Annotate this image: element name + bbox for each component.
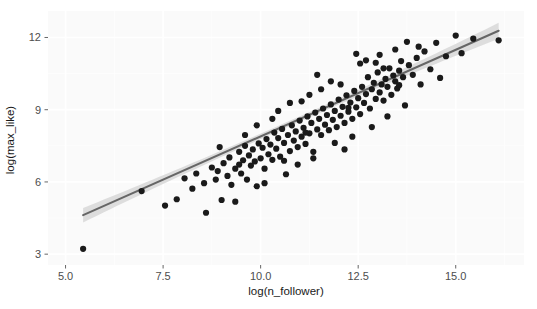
plot-area-svg: 5.07.510.012.515.0 36912 log(n_follower)… <box>0 0 537 309</box>
y-axis-title: log(max_like) <box>4 106 16 175</box>
y-tick-label: 12 <box>29 31 41 43</box>
x-tick-label: 12.5 <box>347 270 368 282</box>
y-tick-label: 3 <box>35 248 41 260</box>
x-tick-label: 15.0 <box>445 270 466 282</box>
y-tick-label: 9 <box>35 104 41 116</box>
y-axis-ticks: 36912 <box>29 31 48 260</box>
x-tick-label: 7.5 <box>155 270 170 282</box>
y-tick-label: 6 <box>35 176 41 188</box>
x-tick-label: 5.0 <box>58 270 73 282</box>
x-axis-title: log(n_follower) <box>248 285 324 297</box>
x-tick-label: 10.0 <box>250 270 271 282</box>
scatter-chart: 5.07.510.012.515.0 36912 log(n_follower)… <box>0 0 537 309</box>
x-axis-ticks: 5.07.510.012.515.0 <box>58 265 467 282</box>
